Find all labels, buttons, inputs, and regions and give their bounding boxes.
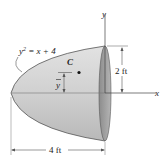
ybar-label: y: [55, 80, 60, 90]
axis-x-label: x: [154, 88, 159, 98]
centroid-label: C: [67, 57, 74, 67]
length-arrow-right: [101, 149, 105, 152]
paraboloid-diagram: y x y2 = x + 4 C y 2 ft 4 ft: [0, 0, 167, 165]
height-arrow-bottom: [121, 89, 124, 93]
height-arrow-top: [121, 47, 124, 51]
equation-label: y2 = x + 4: [18, 46, 56, 57]
length-dimension-label: 4 ft: [49, 145, 62, 155]
axis-y-label: y: [101, 9, 106, 19]
centroid-dot: [77, 71, 80, 74]
paraboloid-body: [11, 46, 105, 141]
height-dimension-label: 2 ft: [115, 66, 128, 76]
equation-leader: [16, 57, 22, 72]
length-arrow-left: [11, 149, 15, 152]
